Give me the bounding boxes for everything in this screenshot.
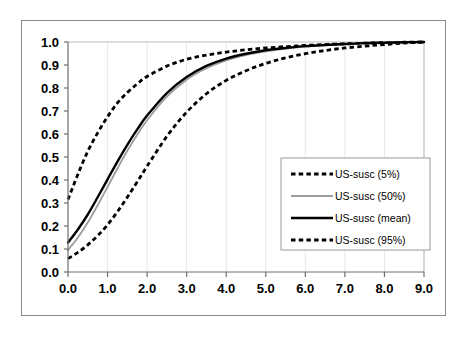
y-axis-tick-label: 0.1 [41, 242, 59, 257]
y-axis-tick-label: 0.8 [41, 81, 59, 96]
y-axis-tick-label: 0.6 [41, 127, 59, 142]
x-axis-tick-label: 5.0 [257, 281, 275, 296]
legend-item-label: US-susc (95%) [335, 234, 406, 246]
x-axis-tick-labels: 0.01.02.03.04.05.06.07.08.09.0 [59, 281, 433, 296]
x-axis-tick-label: 7.0 [336, 281, 354, 296]
chart-legend: US-susc (5%)US-susc (50%)US-susc (mean)U… [281, 158, 430, 250]
legend-item-label: US-susc (50%) [335, 190, 406, 202]
y-axis-tick-label: 1.0 [41, 35, 59, 50]
x-axis-tick-label: 8.0 [375, 281, 393, 296]
legend-item-label: US-susc (5%) [335, 168, 400, 180]
x-axis-tick-label: 9.0 [415, 281, 433, 296]
y-axis-tick-labels: 0.00.10.20.30.40.50.60.70.80.91.0 [41, 35, 60, 280]
x-axis-tick-label: 1.0 [99, 281, 117, 296]
y-axis-tick-label: 0.7 [41, 104, 59, 119]
x-axis-tick-label: 0.0 [59, 281, 77, 296]
legend-item-label: US-susc (mean) [335, 212, 411, 224]
x-axis-tick-label: 6.0 [296, 281, 314, 296]
y-axis-tick-label: 0.0 [41, 265, 59, 280]
x-axis-tick-label: 2.0 [138, 281, 156, 296]
chart-container: 0.00.10.20.30.40.50.60.70.80.91.0 0.01.0… [0, 0, 466, 337]
y-axis-tick-label: 0.3 [41, 196, 59, 211]
y-axis-tick-label: 0.2 [41, 219, 59, 234]
y-axis-tick-label: 0.5 [41, 150, 59, 165]
y-axis-tick-label: 0.9 [41, 58, 59, 73]
y-axis-tick-label: 0.4 [41, 173, 60, 188]
x-axis-tick-label: 4.0 [217, 281, 235, 296]
x-axis-ticks [68, 272, 424, 277]
x-axis-tick-label: 3.0 [178, 281, 196, 296]
chart-plot: 0.00.10.20.30.40.50.60.70.80.91.0 0.01.0… [0, 0, 466, 337]
